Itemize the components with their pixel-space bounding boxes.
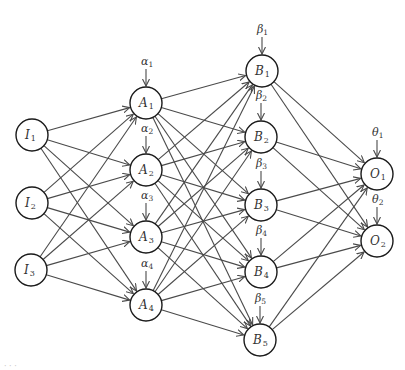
node-A4: A4: [130, 289, 162, 321]
node-B1: B1: [246, 55, 278, 87]
bias-label-O1: θ1: [372, 126, 383, 140]
node-B5: B5: [244, 324, 276, 356]
edge-A4-B1: [153, 86, 254, 291]
bias-label-A2: α2: [141, 122, 153, 136]
edge-B1-O1: [274, 82, 364, 163]
node-B4: B4: [245, 256, 277, 288]
network-nodes: I1I2I3A1A2A3A4B1B2B3B4B5O1O2: [15, 55, 393, 356]
neural-network-diagram: α1α2α3α4β1β2β3β4β5θ1θ2 I1I2I3A1A2A3A4B1B…: [0, 0, 405, 370]
bias-label-O2: θ2: [372, 193, 384, 207]
figure-caption-cut-off: · · ·: [4, 362, 17, 370]
edge-A4-B2: [155, 151, 251, 292]
edge-I1-A2: [47, 140, 129, 165]
node-B3: B3: [245, 189, 277, 221]
edge-I2-A1: [44, 114, 133, 192]
edge-B2-O2: [273, 148, 364, 230]
edge-B5-O2: [272, 252, 364, 330]
edge-A3-B1: [155, 85, 252, 224]
bias-label-B2: β2: [255, 89, 267, 103]
node-A1: A1: [130, 87, 162, 119]
bias-label-B4: β4: [255, 224, 267, 238]
bias-label-B1: β1: [256, 23, 268, 37]
edge-I3-A4: [46, 275, 129, 300]
bias-label-A1: α1: [141, 55, 153, 69]
edge-A4-B3: [158, 216, 248, 294]
edge-A3-B5: [158, 248, 248, 329]
edge-B5-O1: [269, 188, 367, 327]
node-I3: I3: [15, 254, 47, 286]
edge-A3-B2: [158, 148, 248, 226]
bias-label-B5: β5: [254, 292, 266, 306]
edge-I3-A1: [40, 117, 136, 257]
node-O2: O2: [361, 225, 393, 257]
edge-A2-B1: [158, 82, 249, 160]
node-I1: I1: [16, 119, 48, 151]
bias-label-A3: α3: [141, 189, 153, 203]
edge-B2-O1: [276, 142, 361, 169]
node-A3: A3: [130, 221, 162, 253]
edge-I1-A1: [47, 108, 129, 131]
connection-edges: [40, 76, 367, 336]
node-B2: B2: [245, 121, 277, 153]
edge-A1-B2: [161, 108, 244, 133]
node-A2: A2: [130, 154, 162, 186]
edge-B4-O1: [273, 185, 364, 262]
node-O1: O1: [361, 158, 393, 190]
bias-label-A4: α4: [141, 257, 153, 271]
bias-label-B3: β3: [255, 157, 267, 171]
edge-A3-B4: [161, 242, 244, 267]
edge-I3-A2: [43, 181, 133, 259]
node-I2: I2: [16, 187, 48, 219]
